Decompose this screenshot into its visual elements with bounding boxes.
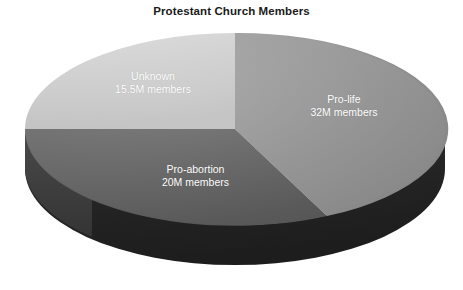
slice-label-unknown-name: Unknown (88, 70, 218, 83)
slice-label-prolife: Pro-life 32M members (284, 93, 404, 119)
slice-label-prolife-value: 32M members (284, 106, 404, 119)
pie-top-sheen (25, 33, 445, 225)
slice-label-prolife-name: Pro-life (284, 93, 404, 106)
slice-label-proabortion-name: Pro-abortion (118, 163, 273, 176)
pie-chart-graphic (0, 0, 463, 290)
pie-chart-figure: Protestant Church Members (0, 0, 463, 290)
slice-label-unknown-value: 15.5M members (88, 83, 218, 96)
slice-label-proabortion: Pro-abortion 20M members (118, 163, 273, 189)
slice-label-unknown: Unknown 15.5M members (88, 70, 218, 96)
slice-label-proabortion-value: 20M members (118, 176, 273, 189)
